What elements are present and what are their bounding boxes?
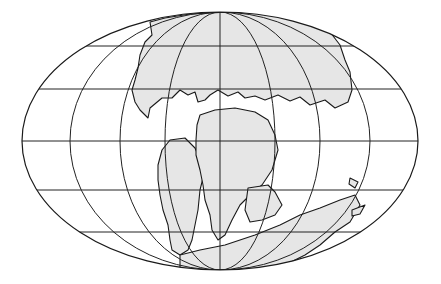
graticule (0, 12, 441, 270)
landmass-pangaea (132, 12, 365, 275)
pangaea-map (0, 0, 441, 284)
